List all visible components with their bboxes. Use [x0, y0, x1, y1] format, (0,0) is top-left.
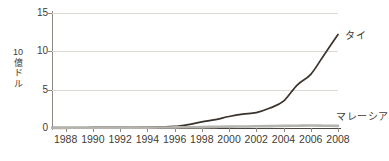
series-line-thailand [52, 34, 338, 127]
series-label-malaysia: マレーシア [336, 112, 389, 122]
series-label-thailand: タイ [345, 31, 366, 41]
series-line-malaysia [52, 126, 338, 128]
